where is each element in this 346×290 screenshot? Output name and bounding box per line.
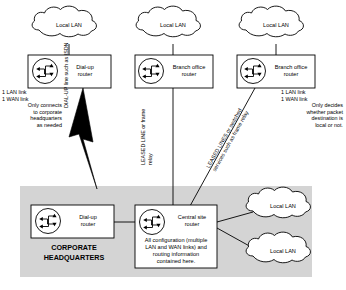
router-label-line1: Central site — [168, 214, 216, 221]
annotation-line: headquarters — [2, 115, 62, 122]
router-label-line2: router — [268, 71, 314, 78]
router-icon — [140, 210, 165, 235]
router-label-line2: router — [168, 221, 216, 228]
router-icon — [139, 59, 164, 84]
note-line: LAN and WAN links) and — [136, 244, 216, 251]
link-label-dialup-line: DIAL-UP line such as ISDN — [63, 38, 70, 108]
router-label-line1: Dial-up — [64, 214, 112, 221]
central-site-router-note: All configuration (multiple LAN and WAN … — [136, 237, 216, 265]
router-icon — [241, 59, 266, 84]
dialup-lightning-bolt — [69, 88, 97, 189]
annotation-line: local or not. — [281, 122, 343, 129]
note-line: routing information — [136, 251, 216, 258]
region-label-line2: HEADQUARTERS — [28, 253, 120, 263]
annotation-line: 1 LAN link — [281, 89, 343, 96]
annotation-line: Only decides — [281, 102, 343, 109]
router-label-line1: Branch office — [166, 64, 212, 71]
annotation-line: 1 LAN link — [2, 89, 62, 96]
router-label-line1: Branch office — [268, 64, 314, 71]
link-label-line1: LEASED LINE or frame — [140, 109, 147, 165]
annotation-line: 1 WAN link — [2, 96, 62, 103]
cloud-label: Local LAN — [44, 22, 94, 29]
router-label-central-site: Central site router — [168, 214, 216, 228]
router-label-branch-middle: Branch office router — [166, 64, 212, 78]
router-label-line2: router — [64, 221, 112, 228]
annotation-line: destination is — [281, 115, 343, 122]
router-label-line2: router — [166, 71, 212, 78]
cloud-label: Local LAN — [258, 248, 308, 255]
annotation-line: as needed — [2, 122, 62, 129]
router-label-dialup-hq: Dial-up router — [64, 214, 112, 228]
region-label-line1: CORPORATE — [28, 243, 120, 253]
note-line: contained here. — [136, 258, 216, 265]
link-label-leased-line-middle: LEASED LINE or frame relay — [140, 109, 153, 165]
router-icon — [36, 209, 61, 234]
annotation-line: 1 WAN link — [281, 96, 343, 103]
router-label-branch-right: Branch office router — [268, 64, 314, 78]
router-icon — [33, 59, 58, 84]
network-diagram: Local LAN Local LAN Local LAN Local LAN … — [0, 0, 346, 290]
cloud-label: Local LAN — [251, 22, 301, 29]
left-router-annotation: 1 LAN link 1 WAN link Only connects to c… — [2, 89, 62, 129]
annotation-line: to corporate — [2, 109, 62, 116]
right-router-annotation: 1 LAN link 1 WAN link Only decides wheth… — [281, 89, 343, 129]
annotation-line: Only connects — [2, 102, 62, 109]
cloud-label: Local LAN — [258, 203, 308, 210]
annotation-line: whether packet — [281, 109, 343, 116]
link-label-line2: relay — [147, 109, 154, 165]
corporate-headquarters-label: CORPORATE HEADQUARTERS — [28, 243, 120, 262]
note-line: All configuration (multiple — [136, 237, 216, 244]
cloud-label: Local LAN — [148, 22, 198, 29]
